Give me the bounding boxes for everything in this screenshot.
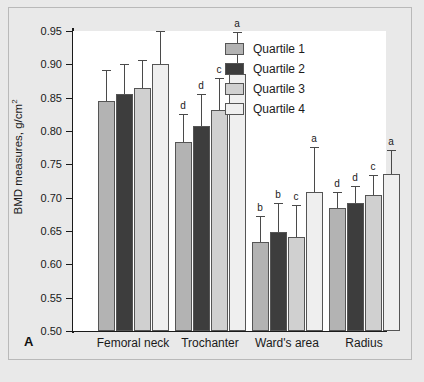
y-tick-label: 0.60 [28,259,62,270]
error-bar-cap [256,216,265,217]
legend: Quartile 1Quartile 2Quartile 3Quartile 4 [225,40,360,120]
legend-item: Quartile 2 [225,60,360,78]
y-tick-mark [66,198,72,199]
error-bar-cap [102,70,111,71]
error-bar [337,192,338,208]
bar [270,232,287,331]
y-tick-mark [66,231,72,232]
error-bar-cap [310,147,319,148]
legend-label: Quartile 3 [253,82,305,96]
y-tick-mark [66,131,72,132]
y-tick-label: 0.70 [28,193,62,204]
y-tick-mark [66,264,72,265]
error-bar [355,186,356,203]
legend-label: Quartile 2 [253,62,305,76]
error-bar [160,31,161,64]
y-tick-mark [66,64,72,65]
bar [329,208,346,331]
legend-item: Quartile 1 [225,40,360,58]
y-tick-label: 0.90 [28,59,62,70]
legend-swatch [225,103,244,115]
significance-letter: c [366,162,380,172]
bar [98,101,115,331]
error-bar [106,70,107,101]
legend-swatch [225,43,244,55]
significance-letter: d [330,179,344,189]
y-tick-mark [66,98,72,99]
bar [116,94,133,331]
bar [252,242,269,331]
error-bar-cap [351,186,360,187]
legend-swatch [225,63,244,75]
significance-letter: b [271,190,285,200]
bar [383,174,400,331]
y-tick-mark [66,298,72,299]
significance-letter: b [253,203,267,213]
significance-letter: d [348,173,362,183]
error-bar-cap [333,192,342,193]
error-bar [124,64,125,93]
panel-label: A [24,334,33,349]
y-tick-label: 0.75 [28,159,62,170]
error-bar [219,78,220,111]
error-bar [391,150,392,174]
bar [193,126,210,331]
error-bar-cap [387,150,396,151]
error-bar-cap [120,64,129,65]
legend-item: Quartile 4 [225,100,360,118]
significance-letter: a [384,137,398,147]
error-bar-cap [179,114,188,115]
error-bar [296,205,297,237]
significance-letter: d [194,81,208,91]
y-tick-label: 0.65 [28,226,62,237]
bar [347,203,364,331]
error-bar [314,147,315,192]
significance-letter: c [289,192,303,202]
y-tick-mark [66,331,72,332]
error-bar-cap [215,78,224,79]
y-tick-label: 0.85 [28,93,62,104]
legend-item: Quartile 3 [225,80,360,98]
bar [306,192,323,331]
error-bar [183,114,184,143]
bar [175,142,192,331]
legend-label: Quartile 1 [253,42,305,56]
y-tick-label: 0.55 [28,293,62,304]
error-bar [260,216,261,243]
bar [288,237,305,331]
y-tick-mark [66,164,72,165]
error-bar-cap [292,205,301,206]
error-bar-cap [233,32,242,33]
bar [134,88,151,331]
figure-panel-a: 0.500.550.600.650.700.750.800.850.900.95… [0,0,424,382]
bar [211,110,228,331]
y-axis-label: BMD measures, g/cm2 [10,42,24,272]
error-bar-cap [274,203,283,204]
x-category-label: Radius [309,336,419,350]
significance-letter: a [230,19,244,29]
significance-letter: d [176,101,190,111]
legend-swatch [225,83,244,95]
error-bar-cap [197,94,206,95]
bar [152,64,169,331]
y-tick-mark [66,31,72,32]
error-bar-cap [156,31,165,32]
y-tick-label: 0.80 [28,126,62,137]
error-bar [142,60,143,89]
error-bar [373,175,374,195]
error-bar [201,94,202,126]
significance-letter: a [307,134,321,144]
error-bar-cap [369,175,378,176]
error-bar [278,203,279,232]
legend-label: Quartile 4 [253,102,305,116]
significance-letter: c [212,65,226,75]
y-tick-label: 0.95 [28,26,62,37]
error-bar-cap [138,60,147,61]
bar [365,195,382,331]
